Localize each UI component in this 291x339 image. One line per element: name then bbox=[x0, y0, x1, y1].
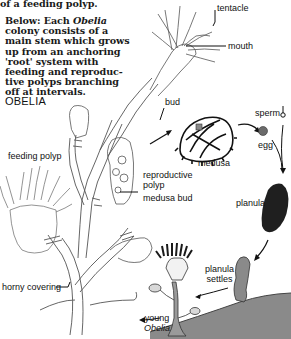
label-planula-settles: planula settles bbox=[205, 264, 234, 284]
label-egg: egg bbox=[258, 140, 273, 150]
label-line: Obelia bbox=[144, 323, 170, 333]
label-young-obelia: young Obelia bbox=[144, 313, 170, 333]
label-line: polyp bbox=[143, 180, 193, 190]
caption-main: Below: Each Obelia colony consists of a … bbox=[5, 16, 140, 98]
label-tentacle: tentacle bbox=[217, 3, 249, 13]
label-horny-covering: horny covering bbox=[2, 282, 61, 292]
label-medusa: medusa bbox=[198, 158, 230, 168]
label-line: settles bbox=[205, 274, 234, 284]
label-line: planula bbox=[205, 264, 234, 274]
label-planula: planula bbox=[236, 198, 265, 208]
caption-top: of a feeding polyp. bbox=[0, 0, 98, 9]
label-reproductive-polyp: reproductive polyp bbox=[143, 170, 193, 190]
label-bud: bud bbox=[165, 97, 180, 107]
diagram-title: OBELIA bbox=[5, 95, 46, 107]
label-line: young bbox=[144, 313, 170, 323]
planula-shape bbox=[262, 184, 289, 233]
label-medusa-bud: medusa bud bbox=[143, 193, 193, 203]
label-line: reproductive bbox=[143, 170, 193, 180]
label-mouth: mouth bbox=[228, 41, 253, 51]
label-feeding-polyp: feeding polyp bbox=[8, 151, 62, 161]
label-sperm: sperm bbox=[255, 108, 280, 118]
